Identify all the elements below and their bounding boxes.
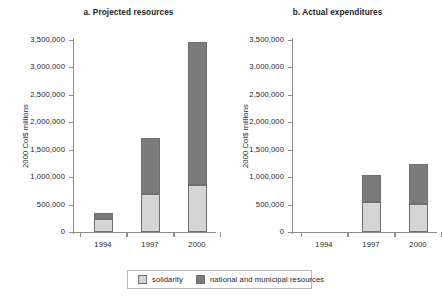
bar-segment-national-and-municipal-resources[interactable] (141, 138, 160, 194)
bar-1997[interactable] (141, 138, 160, 232)
bar-segment-national-and-municipal-resources[interactable] (188, 42, 207, 185)
x-axis-tick-label: 1994 (83, 240, 123, 249)
x-axis-tick (301, 232, 302, 237)
y-axis-tick: 0 (69, 232, 74, 233)
y-axis-tick-label: 2,000,000 (249, 117, 284, 126)
y-axis-tick: 0 (288, 232, 293, 233)
x-axis-line-b (292, 232, 437, 233)
y-axis-tick: 3,000,000 (288, 67, 293, 68)
y-axis-tick-label: 3,500,000 (30, 35, 65, 44)
y-axis-tick-label: 500,000 (256, 200, 284, 209)
bar-segment-national-and-municipal-resources[interactable] (409, 164, 428, 204)
chart-legend: solidarity national and municipal resour… (127, 270, 312, 289)
chart-panel-projected-resources: a. Projected resources 2000 Col$ million… (0, 0, 221, 258)
y-axis-tick-label: 1,500,000 (249, 145, 284, 154)
bar-2000[interactable] (188, 42, 207, 232)
y-axis-label-a: 2000 Col$ millions (21, 104, 30, 168)
y-axis-tick-label: 3,500,000 (249, 35, 284, 44)
y-axis-tick-label: 1,500,000 (30, 145, 65, 154)
y-axis-tick: 500,000 (288, 205, 293, 206)
legend-label-solidarity: solidarity (152, 275, 183, 284)
bar-segment-solidarity[interactable] (188, 185, 207, 232)
legend-swatch-national-icon (196, 275, 205, 284)
bar-segment-national-and-municipal-resources[interactable] (94, 213, 113, 219)
x-axis-tick-label: 1994 (304, 240, 344, 249)
y-axis-tick: 2,000,000 (69, 122, 74, 123)
y-axis-tick-label: 0 (61, 227, 65, 236)
x-axis-tick (80, 232, 81, 237)
bar-segment-solidarity[interactable] (141, 194, 160, 232)
x-axis-tick (174, 232, 175, 237)
y-axis-tick: 1,000,000 (69, 177, 74, 178)
y-axis-tick-label: 1,000,000 (30, 172, 65, 181)
chart-title-b: b. Actual expenditures (221, 8, 442, 17)
y-axis-tick: 1,500,000 (288, 150, 293, 151)
bar-1994[interactable] (94, 213, 113, 232)
y-axis-tick-label: 0 (280, 227, 284, 236)
bar-segment-national-and-municipal-resources[interactable] (362, 175, 381, 202)
x-axis-tick (395, 232, 396, 237)
plot-area-a: 0500,0001,000,0001,500,0002,000,0002,500… (73, 40, 214, 232)
x-axis-tick-label: 2000 (398, 240, 438, 249)
y-axis-tick: 3,500,000 (69, 40, 74, 41)
bar-2000[interactable] (409, 164, 428, 232)
legend-item-solidarity: solidarity (138, 275, 183, 284)
y-axis-tick-label: 1,000,000 (249, 172, 284, 181)
legend-label-national-and-municipal-resources: national and municipal resources (210, 275, 324, 284)
legend-swatch-solidarity-icon (138, 275, 147, 284)
bar-segment-solidarity[interactable] (409, 204, 428, 232)
x-axis-tick-label: 1997 (351, 240, 391, 249)
y-axis-tick-label: 2,500,000 (249, 90, 284, 99)
y-axis-tick: 2,500,000 (288, 95, 293, 96)
x-axis-tick (348, 232, 349, 237)
legend-item-national-and-municipal-resources: national and municipal resources (196, 275, 324, 284)
y-axis-tick-label: 500,000 (37, 200, 65, 209)
chart-panel-actual-expenditures: b. Actual expenditures 2000 Col$ million… (221, 0, 442, 258)
bar-segment-solidarity[interactable] (94, 219, 113, 232)
y-axis-tick-label: 3,000,000 (30, 62, 65, 71)
y-axis-tick-label: 2,500,000 (30, 90, 65, 99)
y-axis-tick: 2,500,000 (69, 95, 74, 96)
y-axis-label-b: 2000 Col$ millions (241, 104, 250, 168)
x-axis-tick-label: 1997 (130, 240, 170, 249)
x-axis-tick (127, 232, 128, 237)
y-axis-tick: 1,000,000 (288, 177, 293, 178)
y-axis-tick: 500,000 (69, 205, 74, 206)
plot-area-b: 0500,0001,000,0001,500,0002,000,0002,500… (292, 40, 435, 232)
y-axis-tick-label: 2,000,000 (30, 117, 65, 126)
y-axis-tick-label: 3,000,000 (249, 62, 284, 71)
y-axis-tick: 3,500,000 (288, 40, 293, 41)
bar-segment-solidarity[interactable] (362, 202, 381, 232)
chart-title-a: a. Projected resources (0, 8, 239, 17)
y-axis-tick: 2,000,000 (288, 122, 293, 123)
figure: a. Projected resources 2000 Col$ million… (0, 0, 442, 300)
x-axis-line-a (73, 232, 216, 233)
bar-1997[interactable] (362, 175, 381, 232)
y-axis-tick: 1,500,000 (69, 150, 74, 151)
y-axis-tick: 3,000,000 (69, 67, 74, 68)
x-axis-tick-label: 2000 (177, 240, 217, 249)
